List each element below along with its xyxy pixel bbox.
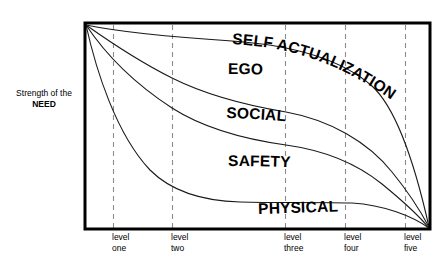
maslow-hierarchy-chart: Strength of the NEED	[0, 0, 444, 265]
band-label-physical: PHYSICAL	[258, 197, 339, 217]
x-tick-label-level-four: level four	[344, 232, 361, 253]
band-label-social: SOCIAL	[226, 104, 287, 124]
y-axis-label-line2: NEED	[8, 99, 80, 110]
chart-plot-area: SELF ACTUALIZATION EGO SOCIAL SAFETY PHY…	[0, 0, 444, 265]
x-tick-label-level-one: level one	[112, 232, 129, 253]
y-axis-label: Strength of the NEED	[8, 88, 80, 110]
y-axis-label-line1: Strength of the	[8, 88, 80, 99]
band-label-ego: EGO	[228, 60, 263, 78]
x-tick-label-level-three: level three	[284, 232, 303, 253]
plot-background	[85, 23, 430, 229]
x-tick-label-level-five: level five	[404, 232, 421, 253]
x-tick-label-level-two: level two	[171, 232, 188, 253]
